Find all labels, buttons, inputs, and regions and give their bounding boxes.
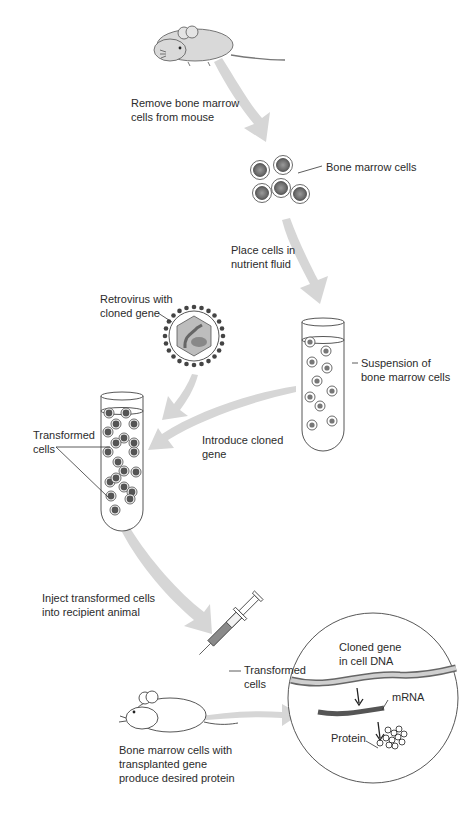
cell-nucleus: [105, 449, 112, 456]
cell-nucleus: [133, 469, 140, 476]
cell-nucleus: [307, 394, 312, 399]
virus-spike: [199, 306, 204, 311]
arrow-virus-to-tube: [162, 374, 198, 420]
cell-nucleus: [329, 388, 334, 393]
virus-spike: [164, 341, 169, 346]
virus-spike: [220, 341, 225, 346]
cell-nucleus: [113, 440, 120, 447]
virus-spike: [164, 326, 169, 331]
cell-dna-inset: [288, 613, 458, 783]
virus-spike: [192, 305, 197, 310]
virus-spike: [206, 309, 211, 314]
virus-spike: [221, 334, 226, 339]
virus-spike: [177, 359, 182, 364]
cell-nucleus: [309, 422, 314, 427]
cell-nucleus: [113, 475, 120, 482]
label-protein: Protein: [331, 731, 366, 745]
label-transformed-cells-syringe: Transformed cells: [244, 663, 306, 691]
suspension-tube-icon: [302, 318, 344, 451]
cell-nucleus: [115, 459, 122, 466]
cell-nucleus: [131, 449, 138, 456]
cell-nucleus: [121, 468, 128, 475]
cell-nucleus: [106, 410, 113, 417]
label-cloned-gene: Cloned gene in cell DNA: [339, 640, 401, 668]
cell-nucleus: [113, 421, 120, 428]
label-inject-cells: Inject transformed cells into recipient …: [42, 591, 155, 619]
virus-spike: [212, 354, 217, 359]
cell-nucleus: [323, 348, 328, 353]
label-place-cells: Place cells in nutrient fluid: [231, 243, 295, 271]
cell-nucleus: [131, 421, 138, 428]
label-result: Bone marrow cells with transplanted gene…: [119, 743, 235, 785]
cell-nucleus: [108, 493, 115, 500]
cell-nucleus: [307, 339, 312, 344]
virus-spike: [212, 313, 217, 318]
cell-nucleus: [105, 429, 112, 436]
cell-nucleus: [329, 418, 334, 423]
virus-spike: [163, 334, 168, 339]
cell-nucleus: [309, 359, 314, 364]
virus-spike: [220, 326, 225, 331]
recipient-mouse-icon: [119, 691, 238, 732]
label-remove-cells: Remove bone marrow cells from mouse: [131, 96, 239, 124]
transformed-tube-icon: [101, 392, 143, 531]
cell-nucleus: [121, 435, 128, 442]
virus-spike: [167, 348, 172, 353]
cell-nucleus: [131, 440, 138, 447]
virus-spike: [199, 362, 204, 367]
virus-spike: [171, 354, 176, 359]
virus-spike: [206, 359, 211, 364]
label-bone-marrow-cells: Bone marrow cells: [326, 160, 416, 174]
cell-nucleus: [112, 507, 119, 514]
label-transformed-cells-tube: Transformed cells: [33, 428, 95, 456]
virus-spike: [192, 363, 197, 368]
virus-spike: [184, 306, 189, 311]
cell-nucleus: [121, 484, 128, 491]
cell-nucleus: [314, 378, 319, 383]
cell-nucleus: [123, 410, 130, 417]
cell-nucleus: [317, 403, 322, 408]
label-retrovirus: Retrovirus with cloned gene: [100, 292, 173, 320]
virus-spike: [217, 348, 222, 353]
cell-nucleus: [127, 496, 134, 503]
virus-spike: [177, 309, 182, 314]
bone-marrow-cells-icon: [251, 156, 310, 204]
virus-spike: [184, 362, 189, 367]
virus-spike: [217, 319, 222, 324]
cell-nucleus: [324, 365, 329, 370]
label-introduce-gene: Introduce cloned gene: [202, 433, 283, 461]
label-mrna: mRNA: [392, 690, 424, 704]
label-suspension: Suspension of bone marrow cells: [361, 356, 450, 384]
leader-bone-marrow: [298, 166, 322, 173]
